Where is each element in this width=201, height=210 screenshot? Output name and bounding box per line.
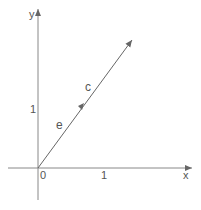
y-tick-label: 1 (30, 104, 36, 115)
x-tick-label: 1 (101, 170, 107, 181)
vector-diagram: y x 0 1 1 e c (0, 0, 201, 210)
vector-c-label: c (85, 81, 91, 93)
vector-e-label: e (56, 119, 63, 131)
origin-label: 0 (40, 170, 46, 181)
y-axis-label: y (29, 9, 35, 20)
x-axis-label: x (183, 170, 189, 181)
vector-c (38, 40, 132, 168)
